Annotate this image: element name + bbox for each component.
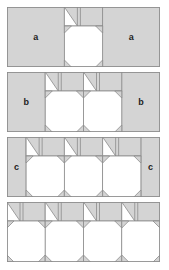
- svg-text:c: c: [148, 162, 153, 172]
- quilt-row-a: aa: [7, 7, 160, 67]
- svg-text:b: b: [23, 97, 29, 107]
- quilt-row-d: [7, 202, 160, 262]
- quilt-row-c: cc: [7, 137, 160, 197]
- svg-text:b: b: [138, 97, 144, 107]
- quilt-row-b: bb: [7, 72, 160, 132]
- svg-text:c: c: [14, 162, 19, 172]
